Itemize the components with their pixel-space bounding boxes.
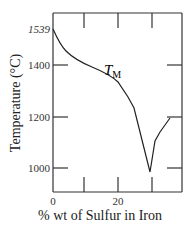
y-label-1539: 1539 (28, 23, 51, 35)
x-tick-label-20: 20 (113, 195, 125, 207)
melting-temperature-curve (53, 29, 170, 172)
y-axis-title: Temperature (°C) (8, 54, 24, 153)
y-tick-label-1400: 1400 (28, 59, 51, 71)
axis-ticks (53, 13, 182, 192)
curve-label: TM (104, 62, 121, 80)
x-tick-label-0: 0 (50, 195, 56, 207)
y-tick-label-1000: 1000 (28, 162, 51, 174)
y-tick-label-1200: 1200 (28, 111, 51, 123)
chart-canvas: 1539 1400 1200 1000 0 20 TM Temperature … (0, 0, 190, 227)
curve-label-sub: M (112, 69, 121, 80)
x-axis-title: % wt of Sulfur in Iron (38, 208, 162, 223)
plot-frame (53, 13, 182, 192)
